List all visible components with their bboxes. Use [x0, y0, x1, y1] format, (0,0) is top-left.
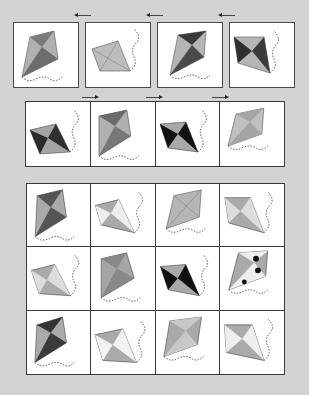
kite-icon [156, 247, 219, 309]
option-kite-10[interactable] [91, 311, 155, 374]
kite-icon [27, 184, 90, 246]
kite-icon [14, 23, 78, 87]
option-kite-6[interactable] [91, 247, 155, 310]
kite-icon [86, 23, 150, 87]
option-kite-2[interactable] [91, 184, 155, 247]
kite-icon [27, 247, 90, 309]
kite-icon [91, 311, 154, 374]
option-kite-9[interactable] [27, 311, 91, 374]
top-kite-4[interactable] [229, 22, 295, 88]
option-kite-8[interactable] [220, 247, 284, 310]
sequence-kite-1[interactable] [26, 102, 91, 166]
option-kite-1[interactable] [27, 184, 91, 247]
kite-icon [158, 23, 222, 87]
top-kite-2[interactable] [85, 22, 151, 88]
kite-icon [230, 23, 294, 87]
kite-icon [220, 311, 284, 374]
sequence-strip [25, 101, 285, 167]
arrow-left-icon [149, 15, 163, 16]
arrow-left-icon [77, 15, 91, 16]
answer-grid [26, 183, 285, 375]
sequence-kite-3[interactable] [156, 102, 221, 166]
kite-icon [156, 102, 220, 166]
kite-icon [91, 184, 154, 246]
kite-icon [220, 247, 284, 309]
kite-icon [156, 311, 219, 374]
kite-icon [26, 102, 90, 166]
top-kite-3[interactable] [157, 22, 223, 88]
option-kite-5[interactable] [27, 247, 91, 310]
arrow-left-icon [221, 15, 235, 16]
option-kite-3[interactable] [156, 184, 220, 247]
sequence-kite-2[interactable] [91, 102, 156, 166]
kite-icon [27, 311, 90, 374]
option-kite-4[interactable] [220, 184, 284, 247]
option-kite-7[interactable] [156, 247, 220, 310]
arrow-right-icon [82, 97, 96, 98]
option-kite-11[interactable] [156, 311, 220, 374]
option-kite-12[interactable] [220, 311, 284, 374]
top-kite-1[interactable] [13, 22, 79, 88]
sequence-kite-4[interactable] [220, 102, 284, 166]
kite-icon [91, 102, 155, 166]
kite-icon [156, 184, 219, 246]
arrow-right-icon [212, 97, 226, 98]
kite-icon [220, 102, 284, 166]
arrow-right-icon [146, 97, 160, 98]
kite-icon [91, 247, 154, 309]
kite-icon [220, 184, 284, 246]
